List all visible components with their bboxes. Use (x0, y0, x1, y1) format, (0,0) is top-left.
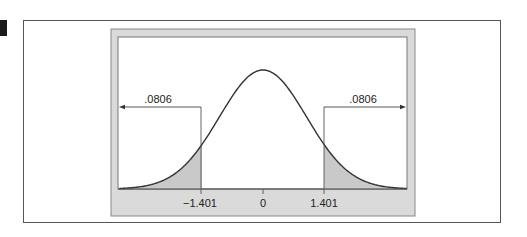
tick-label-neg: −1.401 (183, 197, 217, 209)
tick-label-pos: 1.401 (310, 197, 338, 209)
left-tail-area-label: .0806 (144, 93, 172, 105)
plot-area (118, 37, 407, 189)
right-tail-area-label: .0806 (349, 93, 377, 105)
tick-label-zero: 0 (260, 197, 266, 209)
normal-distribution-chart: .0806 .0806 −1.401 0 1.401 (0, 0, 527, 237)
